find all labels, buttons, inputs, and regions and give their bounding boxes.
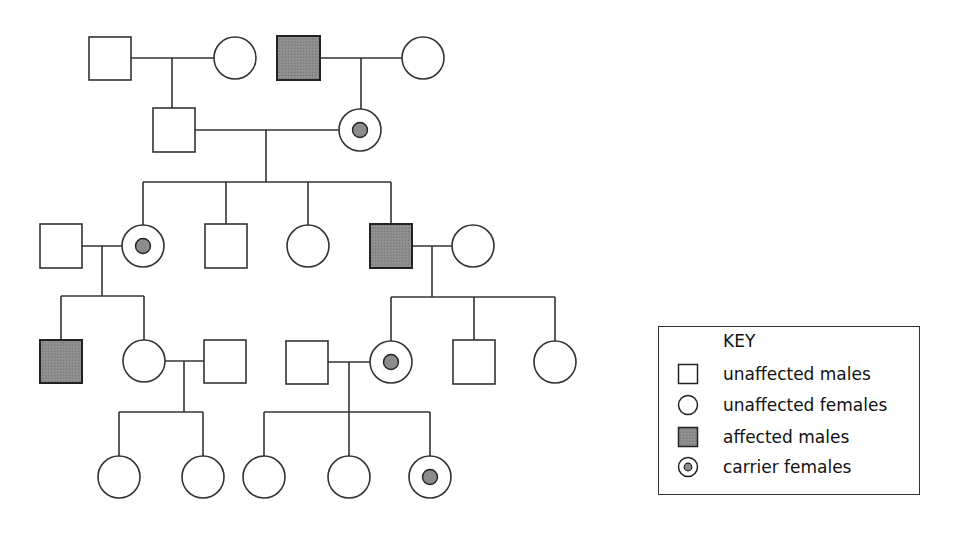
carrier-dot-icon [136, 239, 151, 254]
female-unaffected-V2 [182, 456, 224, 498]
legend-item-affected-males: affected males [677, 424, 849, 450]
female-carrier-IV5 [370, 341, 412, 383]
female-unaffected-V3 [243, 456, 285, 498]
female-carrier-III2 [122, 225, 164, 267]
legend-item-unaffected-males: unaffected males [677, 361, 871, 387]
legend-label: unaffected males [723, 364, 871, 384]
individuals [40, 36, 576, 498]
carrier-dot-icon [423, 470, 438, 485]
female-carrier-V5 [409, 456, 451, 498]
square-empty-icon [677, 363, 699, 385]
male-affected-III5 [370, 224, 412, 268]
carrier-dot-icon [384, 355, 399, 370]
female-unaffected-I4 [402, 37, 444, 79]
female-unaffected-I2 [214, 37, 256, 79]
male-unaffected-III1 [40, 224, 82, 268]
female-carrier-II2 [339, 109, 381, 151]
legend-key: KEY unaffected males unaffected females … [658, 326, 920, 495]
male-unaffected-II1 [153, 108, 195, 152]
female-unaffected-III4 [287, 225, 329, 267]
male-affected-I3 [277, 36, 320, 80]
male-unaffected-IV6 [453, 340, 495, 384]
legend-title: KEY [723, 331, 755, 351]
circle-empty-icon [677, 394, 699, 416]
female-unaffected-IV7 [534, 341, 576, 383]
legend-label: unaffected females [723, 395, 887, 415]
male-unaffected-IV3 [204, 340, 246, 383]
carrier-dot-icon [353, 123, 368, 138]
female-unaffected-V4 [328, 456, 370, 498]
legend-label: affected males [723, 427, 849, 447]
square-filled-icon [677, 426, 699, 448]
male-unaffected-I1 [89, 37, 131, 80]
female-unaffected-IV2 [123, 340, 165, 382]
male-unaffected-III3 [205, 224, 247, 268]
female-unaffected-III6 [452, 225, 494, 267]
circle-dot-icon [677, 456, 699, 478]
legend-item-unaffected-females: unaffected females [677, 392, 887, 418]
male-affected-IV1 [40, 340, 82, 383]
male-unaffected-IV4 [286, 341, 328, 384]
legend-label: carrier females [723, 457, 851, 477]
female-unaffected-V1 [98, 456, 140, 498]
legend-item-carrier-females: carrier females [677, 454, 851, 480]
